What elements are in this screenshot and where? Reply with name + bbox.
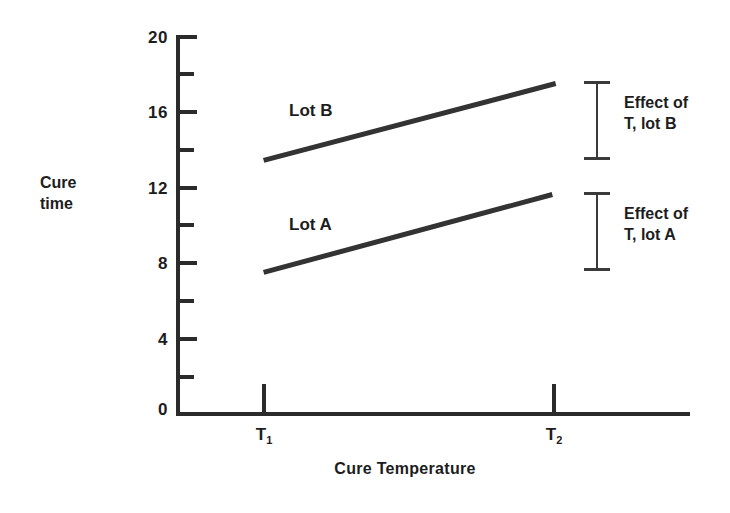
- x-tick-t2: [552, 384, 556, 412]
- y-minor-tick-10: [180, 223, 194, 227]
- y-major-tick-8: [180, 261, 197, 265]
- x-axis-title: Cure Temperature: [255, 460, 555, 478]
- x-tick-label-t1-base: T: [256, 425, 266, 444]
- chart-figure: 20 16 12 8 4 0 Cure time T1 T2 Cure Temp…: [0, 0, 730, 513]
- errorbar-lot-a-label-line1: Effect of: [624, 203, 688, 224]
- y-minor-tick-2: [180, 375, 194, 379]
- errorbar-lot-a-label-line2: T, lot A: [624, 224, 688, 245]
- x-tick-label-t1-sub: 1: [266, 434, 272, 446]
- y-tick-label-4: 4: [126, 330, 168, 350]
- y-major-tick-4: [180, 337, 197, 341]
- y-tick-label-16: 16: [126, 103, 168, 123]
- y-minor-tick-6: [180, 299, 194, 303]
- y-tick-label-20: 20: [126, 28, 168, 48]
- errorbar-lot-a-label: Effect of T, lot A: [624, 203, 688, 245]
- series-label-lot-a: Lot A: [289, 215, 332, 235]
- y-minor-tick-18: [180, 72, 194, 76]
- y-axis-title: Cure time: [40, 172, 130, 214]
- y-axis-title-line1: Cure: [40, 172, 130, 193]
- errorbar-lot-a-bottom-cap: [584, 268, 610, 271]
- errorbar-lot-b-label-line2: T, lot B: [624, 113, 688, 134]
- x-tick-label-t1: T1: [239, 425, 289, 446]
- series-label-lot-b: Lot B: [289, 101, 332, 121]
- y-major-tick-20: [180, 35, 197, 39]
- errorbar-lot-b-bottom-cap: [584, 157, 610, 160]
- y-tick-label-0: 0: [126, 400, 168, 420]
- y-major-tick-16: [180, 110, 197, 114]
- y-tick-label-8: 8: [126, 254, 168, 274]
- errorbar-lot-b-stem: [596, 81, 598, 160]
- y-axis-title-line2: time: [40, 193, 130, 214]
- y-tick-label-12: 12: [126, 179, 168, 199]
- y-major-tick-12: [180, 186, 197, 190]
- x-tick-label-t2: T2: [529, 425, 579, 446]
- series-line-lot-b: [263, 81, 556, 163]
- x-tick-t1: [262, 384, 266, 412]
- y-minor-tick-14: [180, 148, 194, 152]
- errorbar-lot-b-label: Effect of T, lot B: [624, 92, 688, 134]
- x-tick-label-t2-base: T: [546, 425, 556, 444]
- errorbar-lot-a-stem: [596, 192, 598, 271]
- x-tick-label-t2-sub: 2: [556, 434, 562, 446]
- x-axis-line: [176, 412, 690, 416]
- errorbar-lot-b-label-line1: Effect of: [624, 92, 688, 113]
